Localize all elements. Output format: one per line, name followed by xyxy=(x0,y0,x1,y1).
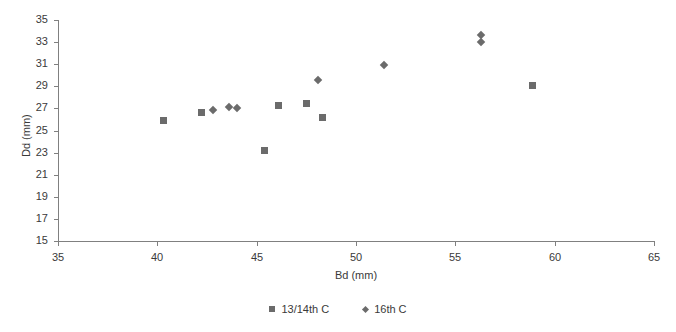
y-axis-tick xyxy=(54,42,58,43)
x-axis-tick xyxy=(555,242,556,246)
y-axis-tick xyxy=(54,131,58,132)
y-axis-tick-label: 27 xyxy=(22,102,48,113)
x-axis-tick xyxy=(654,242,655,246)
x-axis-tick-label: 50 xyxy=(341,252,371,263)
data-point xyxy=(303,100,310,107)
legend-item-label: 13/14th C xyxy=(281,303,329,315)
x-axis-tick xyxy=(257,242,258,246)
data-point xyxy=(198,109,205,116)
y-axis-tick-label: 33 xyxy=(22,36,48,47)
y-axis-tick-label: 21 xyxy=(22,169,48,180)
y-axis-tick xyxy=(54,175,58,176)
legend-diamond-marker-icon xyxy=(362,305,369,312)
y-axis-tick xyxy=(54,20,58,21)
data-point xyxy=(529,82,536,89)
x-axis-tick-label: 35 xyxy=(43,252,73,263)
data-point xyxy=(380,61,388,69)
data-point xyxy=(275,102,282,109)
legend-item: 16th C xyxy=(363,303,406,315)
legend-item: 13/14th C xyxy=(269,303,329,315)
y-axis-tick xyxy=(54,153,58,154)
y-axis-tick xyxy=(54,64,58,65)
data-point xyxy=(319,114,326,121)
data-point xyxy=(160,117,167,124)
x-axis-title: Bd (mm) xyxy=(296,269,416,281)
x-axis-tick xyxy=(58,242,59,246)
y-axis-tick-label: 19 xyxy=(22,191,48,202)
y-axis-tick-label: 35 xyxy=(22,14,48,25)
x-axis-tick-label: 45 xyxy=(242,252,272,263)
y-axis-tick xyxy=(54,219,58,220)
legend-square-marker-icon xyxy=(269,306,275,312)
data-point xyxy=(261,147,268,154)
y-axis-tick xyxy=(54,108,58,109)
chart-legend: 13/14th C16th C xyxy=(0,303,676,315)
x-axis-tick xyxy=(455,242,456,246)
data-point xyxy=(314,75,322,83)
y-axis-tick-label: 15 xyxy=(22,235,48,246)
data-point xyxy=(209,105,217,113)
x-axis-tick-label: 40 xyxy=(142,252,172,263)
data-point xyxy=(477,38,485,46)
y-axis-tick-label: 17 xyxy=(22,213,48,224)
y-axis-line xyxy=(58,20,59,242)
data-point xyxy=(233,104,241,112)
x-axis-tick-label: 55 xyxy=(440,252,470,263)
y-axis-tick-label: 29 xyxy=(22,80,48,91)
y-axis-tick xyxy=(54,197,58,198)
legend-item-label: 16th C xyxy=(374,303,406,315)
x-axis-tick xyxy=(157,242,158,246)
x-axis-tick xyxy=(356,242,357,246)
y-axis-title: Dd (mm) xyxy=(20,114,32,157)
y-axis-tick-label: 31 xyxy=(22,58,48,69)
y-axis-tick xyxy=(54,86,58,87)
x-axis-tick-label: 65 xyxy=(639,252,669,263)
scatter-chart: 1517192123252729313335 35404550556065 Dd… xyxy=(0,0,676,332)
x-axis-tick-label: 60 xyxy=(540,252,570,263)
